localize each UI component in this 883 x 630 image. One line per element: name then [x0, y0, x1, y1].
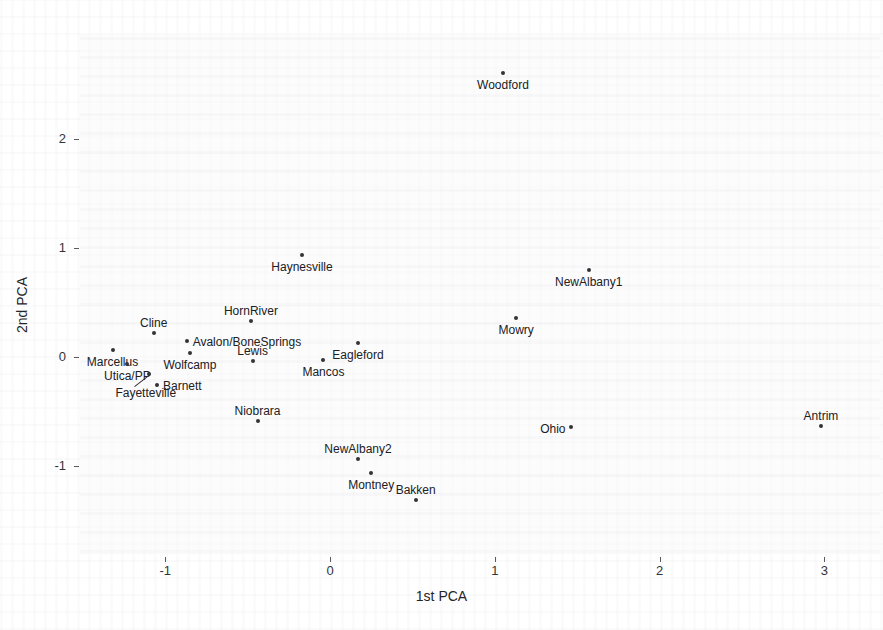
data-point	[188, 351, 192, 355]
x-axis-label: 1st PCA	[0, 588, 883, 604]
data-point	[152, 331, 156, 335]
data-point-label: NewAlbany2	[324, 443, 391, 455]
data-point	[256, 419, 260, 423]
y-tick-mark	[74, 139, 79, 140]
y-tick-mark	[74, 357, 79, 358]
data-point	[514, 316, 518, 320]
y-tick-mark	[74, 248, 79, 249]
data-point-label: Montney	[348, 479, 394, 491]
y-axis-label: 2nd PCA	[14, 245, 30, 365]
y-tick-label: -1	[26, 458, 66, 473]
data-point-label: Bakken	[396, 484, 436, 496]
x-tick-label: 2	[640, 563, 680, 578]
y-tick-mark	[74, 466, 79, 467]
data-point	[249, 319, 253, 323]
x-tick-label: 0	[310, 563, 350, 578]
data-point	[251, 359, 255, 363]
data-point-label: Lewis	[237, 345, 268, 357]
x-tick-mark	[824, 557, 825, 562]
plot-panel	[80, 33, 880, 555]
x-tick-label: -1	[145, 563, 185, 578]
data-point	[414, 498, 418, 502]
data-point-label: Woodford	[477, 79, 529, 91]
data-point	[819, 424, 823, 428]
data-point-label: Mowry	[498, 324, 533, 336]
x-tick-mark	[495, 557, 496, 562]
data-point-label: Mancos	[302, 366, 344, 378]
x-tick-label: 3	[804, 563, 844, 578]
data-point	[125, 362, 129, 366]
data-point-label: Ohio	[540, 423, 565, 435]
data-point	[569, 425, 573, 429]
data-point	[501, 71, 505, 75]
data-point-label: Marcellus	[87, 356, 138, 368]
data-point	[185, 339, 189, 343]
x-tick-mark	[660, 557, 661, 562]
x-tick-label: 1	[475, 563, 515, 578]
data-point-label: Haynesville	[271, 261, 332, 273]
data-point-label: Niobrara	[234, 405, 280, 417]
y-tick-label: 1	[26, 240, 66, 255]
data-point-label: Cline	[140, 317, 167, 329]
data-point-label: Eagleford	[332, 349, 383, 361]
data-point-label: HornRiver	[224, 305, 278, 317]
data-point	[300, 253, 304, 257]
data-point-label: Antrim	[804, 410, 839, 422]
x-tick-mark	[330, 557, 331, 562]
data-point	[587, 268, 591, 272]
data-point-label: Barnett	[163, 380, 202, 392]
data-point	[356, 341, 360, 345]
data-point-label: NewAlbany1	[555, 276, 622, 288]
y-tick-label: 2	[26, 131, 66, 146]
pca-scatter-figure: -10123-1012 WoodfordHaynesvilleNewAlbany…	[0, 0, 883, 630]
y-tick-label: 0	[26, 349, 66, 364]
x-tick-mark	[165, 557, 166, 562]
data-point-label: Wolfcamp	[163, 359, 216, 371]
data-point	[369, 471, 373, 475]
